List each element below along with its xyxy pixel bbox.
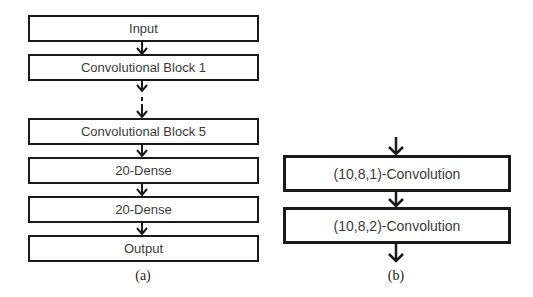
block-label: Convolutional Block 1 [81, 60, 206, 75]
conv-layer-2: (10,8,2)-Convolution [283, 207, 511, 244]
caption-a: (a) [135, 268, 151, 284]
output-block: Output [28, 235, 259, 262]
dense-block-1: 20-Dense [28, 157, 259, 184]
conv-layer-1: (10,8,1)-Convolution [283, 155, 511, 192]
conv-block-1: Convolutional Block 1 [28, 54, 259, 81]
block-label: 20-Dense [115, 202, 171, 217]
dense-block-2: 20-Dense [28, 196, 259, 223]
input-block: Input [28, 15, 259, 42]
block-label: 20-Dense [115, 163, 171, 178]
block-label: Output [124, 241, 163, 256]
block-label: Input [129, 21, 158, 36]
block-label: (10,8,2)-Convolution [334, 218, 461, 234]
block-label: Convolutional Block 5 [81, 124, 206, 139]
conv-block-5: Convolutional Block 5 [28, 118, 259, 145]
block-label: (10,8,1)-Convolution [334, 166, 461, 182]
caption-b: (b) [388, 268, 404, 284]
